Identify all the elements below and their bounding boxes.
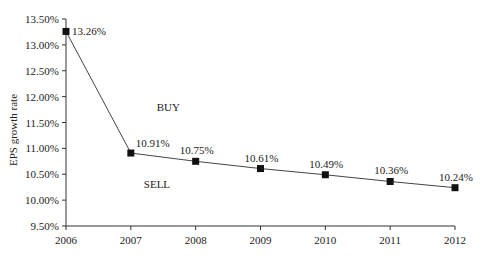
square-marker-icon xyxy=(257,165,264,172)
x-tick-label: 2006 xyxy=(55,234,78,246)
y-tick-label: 11.00% xyxy=(25,142,59,154)
square-marker-icon xyxy=(192,158,199,165)
y-tick-label: 10.00% xyxy=(25,194,59,206)
square-marker-icon xyxy=(127,150,134,157)
data-label: 10.91% xyxy=(136,137,170,149)
x-tick-label: 2012 xyxy=(444,234,466,246)
data-label: 10.24% xyxy=(439,171,473,183)
square-marker-icon xyxy=(322,171,329,178)
data-label: 10.49% xyxy=(309,158,343,170)
square-marker-icon xyxy=(63,28,70,35)
annotation-sell: SELL xyxy=(144,178,171,190)
x-axis: 2006200720082009201020112012 xyxy=(55,226,466,246)
series-eps-growth: 13.26%10.91%10.75%10.61%10.49%10.36%10.2… xyxy=(63,25,473,191)
x-tick-label: 2007 xyxy=(120,234,143,246)
y-tick-label: 12.50% xyxy=(25,65,59,77)
annotation-buy: BUY xyxy=(157,101,180,113)
eps-growth-chart: 9.50%10.00%10.50%11.00%11.50%12.00%12.50… xyxy=(0,0,483,261)
data-label: 10.75% xyxy=(180,144,214,156)
y-tick-label: 10.50% xyxy=(25,168,59,180)
y-tick-label: 9.50% xyxy=(31,220,59,232)
y-tick-label: 12.00% xyxy=(25,91,59,103)
data-label: 10.61% xyxy=(245,152,279,164)
y-tick-label: 11.50% xyxy=(25,117,59,129)
data-label: 10.36% xyxy=(374,164,408,176)
x-tick-label: 2010 xyxy=(314,234,337,246)
square-marker-icon xyxy=(452,184,459,191)
y-axis-title: EPS growth rate xyxy=(7,94,19,166)
x-tick-label: 2009 xyxy=(250,234,273,246)
x-tick-label: 2008 xyxy=(185,234,208,246)
y-tick-label: 13.00% xyxy=(25,39,59,51)
data-label: 13.26% xyxy=(72,25,106,37)
y-tick-label: 13.50% xyxy=(25,13,59,25)
x-tick-label: 2011 xyxy=(379,234,401,246)
square-marker-icon xyxy=(387,178,394,185)
y-axis: 9.50%10.00%10.50%11.00%11.50%12.00%12.50… xyxy=(25,13,66,232)
